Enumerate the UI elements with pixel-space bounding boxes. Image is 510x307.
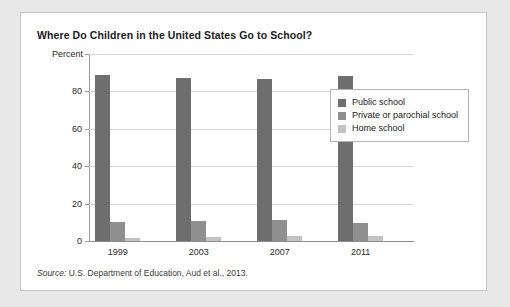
legend-swatch-icon [338, 112, 346, 120]
x-tick-label: 2007 [270, 247, 290, 257]
bar [368, 236, 383, 241]
y-tick-label: 40 [72, 161, 82, 171]
y-tick-mark [85, 129, 89, 130]
legend-item: Private or parochial school [338, 110, 458, 121]
bar [287, 236, 302, 241]
x-tick-label: 2003 [189, 247, 209, 257]
y-tick-mark [85, 91, 89, 92]
y-tick-label: 60 [72, 124, 82, 134]
y-tick-mark [85, 241, 89, 242]
x-tick-label: 2011 [351, 247, 370, 257]
bar-group: 2011 [338, 54, 384, 241]
bar [206, 237, 221, 241]
x-axis-line [89, 241, 414, 242]
bar [191, 221, 206, 241]
source-text: U.S. Department of Education, Aud et al.… [69, 268, 248, 278]
y-tick-mark [85, 54, 89, 55]
bar-group: 1999 [95, 54, 141, 241]
bar-group: 2003 [176, 54, 222, 241]
y-tick-label: 80 [72, 86, 82, 96]
legend-swatch-icon [338, 99, 346, 107]
plot-area: 0204060801999200320072011 [89, 54, 413, 241]
bar [176, 78, 191, 241]
bar [353, 223, 368, 241]
bar [257, 79, 272, 241]
y-axis-title: Percent [52, 49, 83, 59]
source-prefix: Source: [37, 268, 66, 278]
y-tick-label: 20 [72, 199, 82, 209]
y-tick-label: 0 [77, 236, 82, 246]
bar [110, 222, 125, 241]
figure-card: Where Do Children in the United States G… [20, 12, 487, 291]
y-tick-mark [85, 166, 89, 167]
source-note: Source: U.S. Department of Education, Au… [37, 268, 248, 278]
bar [125, 238, 140, 241]
y-tick-mark [85, 204, 89, 205]
chart-title: Where Do Children in the United States G… [37, 29, 312, 41]
bar-group: 2007 [257, 54, 303, 241]
chart-legend: Public schoolPrivate or parochial school… [330, 89, 469, 142]
legend-label: Private or parochial school [352, 110, 458, 121]
legend-item: Public school [338, 97, 458, 108]
bar [95, 75, 110, 241]
legend-item: Home school [338, 123, 458, 134]
bar [272, 220, 287, 241]
legend-swatch-icon [338, 125, 346, 133]
legend-label: Home school [352, 123, 405, 134]
legend-label: Public school [352, 97, 405, 108]
x-tick-label: 1999 [108, 247, 128, 257]
